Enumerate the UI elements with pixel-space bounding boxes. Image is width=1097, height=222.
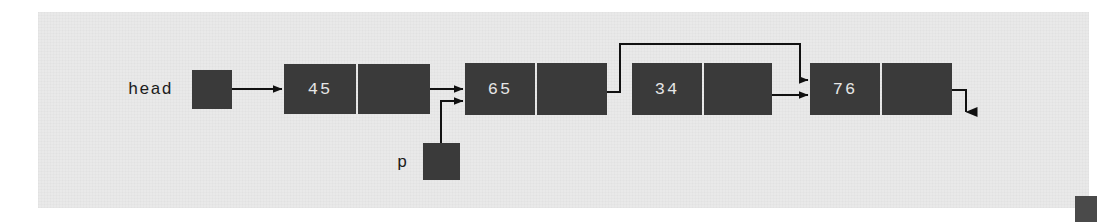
- head-pointer-box: [192, 70, 232, 109]
- node-34-pointer-cell: [704, 63, 772, 115]
- node-45-pointer-cell: [358, 64, 430, 114]
- p-pointer-label: p: [397, 153, 408, 172]
- node-76-pointer-cell: [882, 63, 952, 115]
- node-65-pointer-cell: [537, 63, 607, 115]
- head-pointer-label: head: [128, 80, 173, 99]
- linked-list-figure: head 45 65 34 76 p: [0, 0, 1097, 222]
- node-34-data-cell: 34: [632, 63, 702, 115]
- scan-artifact: [1075, 196, 1097, 222]
- p-pointer-box: [423, 143, 460, 180]
- node-76-data-cell: 76: [810, 63, 880, 115]
- node-45-data-cell: 45: [284, 64, 356, 114]
- node-65-data-cell: 65: [465, 63, 535, 115]
